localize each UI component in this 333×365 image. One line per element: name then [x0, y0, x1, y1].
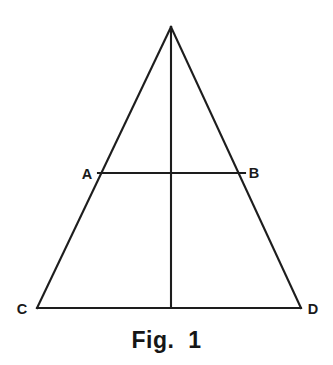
- vertex-label-c: C: [17, 301, 28, 317]
- vertex-label-a: A: [82, 166, 93, 182]
- vertex-label-b: B: [249, 165, 259, 181]
- triangle-diagram: ABCD: [0, 0, 333, 365]
- vertex-label-layer: ABCD: [17, 165, 318, 317]
- segment-layer: [37, 27, 301, 308]
- segment-right-side: [171, 27, 301, 308]
- figure-container: ABCD Fig. 1: [0, 0, 333, 365]
- figure-caption: Fig. 1: [0, 327, 333, 354]
- vertex-label-d: D: [308, 301, 318, 317]
- segment-left-side: [37, 27, 171, 308]
